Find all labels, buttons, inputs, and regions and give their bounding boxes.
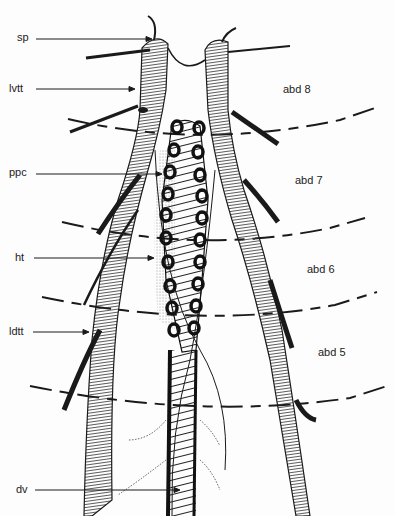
- label-ht: ht: [15, 252, 24, 263]
- anatomical-diagram: sp lvtt ppc ht ldtt dv abd 8 abd 7 abd 6…: [0, 0, 395, 516]
- dorsal-vessel: [118, 350, 220, 516]
- label-abd-7: abd 7: [295, 175, 323, 186]
- label-sp: sp: [17, 32, 29, 43]
- label-lvtt: lvtt: [9, 83, 23, 94]
- label-abd-5: abd 5: [318, 347, 346, 358]
- label-dv: dv: [16, 484, 28, 495]
- label-abd-8: abd 8: [283, 84, 311, 95]
- label-ldtt: ldtt: [9, 326, 24, 337]
- label-abd-6: abd 6: [307, 264, 335, 275]
- diagram-drawing: [0, 0, 395, 516]
- label-ppc: ppc: [9, 167, 27, 178]
